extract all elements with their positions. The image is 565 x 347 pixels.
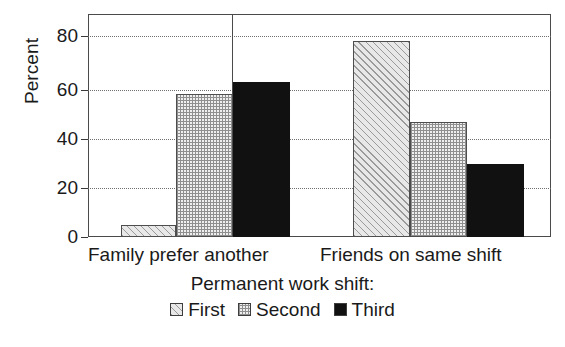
y-tick-20: 20 <box>0 188 78 207</box>
legend-item-first: First <box>170 300 225 319</box>
y-tick-mark-80 <box>81 36 88 37</box>
category-label-family: Family prefer another <box>88 244 232 266</box>
y-tick-mark-20 <box>81 188 88 189</box>
legend-swatch-first-icon <box>170 303 183 316</box>
bar-friends-first <box>353 41 410 237</box>
bar-family-first <box>121 225 176 237</box>
y-tick-mark-0 <box>81 237 88 238</box>
y-tick-mark-60 <box>81 90 88 91</box>
legend-swatch-third-icon <box>334 303 347 316</box>
legend-label-second: Second <box>256 300 320 319</box>
legend-item-third: Third <box>334 300 395 319</box>
bar-friends-third <box>467 164 524 237</box>
legend-swatch-second-icon <box>238 303 251 316</box>
bars-layer <box>88 14 551 237</box>
legend: First Second Third <box>0 300 565 319</box>
bar-chart: Percent 80 60 40 20 0 <box>0 0 565 347</box>
y-tick-mark-40 <box>81 139 88 140</box>
x-axis-title: Permanent work shift: <box>0 273 565 295</box>
legend-label-first: First <box>188 300 225 319</box>
panel-divider <box>232 14 233 237</box>
legend-label-third: Third <box>352 300 395 319</box>
y-tick-80: 80 <box>0 36 78 55</box>
bar-friends-second <box>410 122 467 237</box>
y-tick-0: 0 <box>0 237 78 256</box>
legend-item-second: Second <box>238 300 320 319</box>
category-label-friends: Friends on same shift <box>320 244 464 266</box>
y-tick-40: 40 <box>0 139 78 158</box>
bar-family-third <box>233 82 290 237</box>
bar-family-second <box>176 94 233 237</box>
y-tick-60: 60 <box>0 90 78 109</box>
